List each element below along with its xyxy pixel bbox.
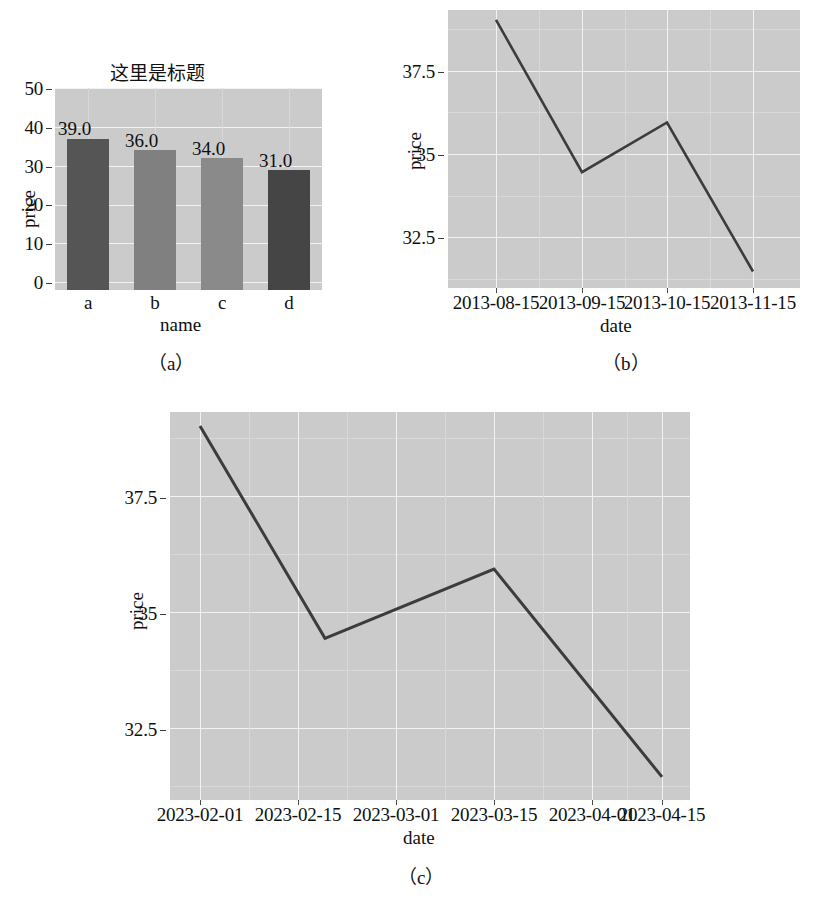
ytick-mark [46, 205, 52, 206]
line-series-b [448, 10, 800, 288]
ytick-mark [438, 155, 444, 156]
line-series-c [170, 412, 690, 800]
ytick-mark [46, 283, 52, 284]
yaxis-title-b: price [404, 132, 426, 170]
ytick-mark [46, 89, 52, 90]
ytick-mark [46, 167, 52, 168]
plot-area-b [448, 10, 800, 288]
bar-value-c: 34.0 [171, 138, 246, 160]
xtick-label-b-4: 2013-11-15 [695, 292, 811, 314]
ytick-label-c-37-5: 37.5 [112, 487, 166, 509]
bar-a[interactable] [67, 139, 109, 291]
bar-c[interactable] [201, 158, 243, 290]
ytick-label-a-50: 50 [4, 78, 52, 100]
figure-caption-c: （c） [398, 862, 444, 889]
figure-caption-b: （b） [602, 348, 650, 375]
xtick-label-a-b: b [125, 292, 185, 314]
xaxis-title-a: name [160, 314, 201, 336]
bar-b[interactable] [134, 150, 176, 290]
ytick-mark [438, 238, 444, 239]
ytick-label-a-40: 40 [4, 117, 52, 139]
xaxis-title-b: date [600, 315, 632, 337]
bar-value-b: 36.0 [104, 130, 179, 152]
xtick-label-a-d: d [259, 292, 319, 314]
ytick-mark [46, 128, 52, 129]
ytick-label-c-32-5: 32.5 [112, 719, 166, 741]
plot-area-c [170, 412, 690, 800]
xaxis-title-c: date [403, 827, 435, 849]
ytick-label-b-32-5: 32.5 [392, 227, 444, 249]
gridline-y-50 [55, 88, 322, 89]
bar-value-d: 31.0 [238, 150, 313, 172]
xtick-label-c-6: 2023-04-15 [604, 804, 720, 826]
ytick-mark [160, 730, 166, 731]
ytick-mark [160, 498, 166, 499]
bar-d[interactable] [268, 170, 310, 290]
figure-caption-a: （a） [148, 348, 194, 375]
yaxis-title-c: price [126, 592, 148, 630]
ytick-label-b-37-5: 37.5 [392, 61, 444, 83]
ytick-mark [438, 72, 444, 73]
xtick-label-a-a: a [58, 292, 118, 314]
yaxis-title-a: price [18, 190, 40, 228]
ytick-label-a-0: 0 [4, 272, 52, 294]
xtick-label-a-c: c [192, 292, 252, 314]
ytick-mark [160, 614, 166, 615]
ytick-mark [46, 244, 52, 245]
ytick-label-a-30: 30 [4, 156, 52, 178]
chart-title-a: 这里是标题 [110, 58, 205, 85]
ytick-label-a-10: 10 [4, 233, 52, 255]
